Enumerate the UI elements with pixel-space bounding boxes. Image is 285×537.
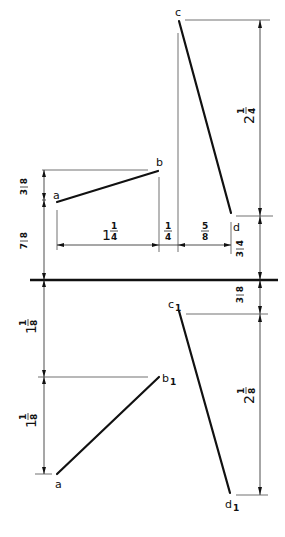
arrowhead: [42, 370, 46, 377]
svg-text:2: 2: [241, 395, 257, 404]
svg-text:4: 4: [235, 240, 245, 246]
dimension-label-one-and-eighth-upper: 1 1 8: [18, 319, 39, 334]
svg-text:1: 1: [236, 108, 246, 114]
point-label-c1-subscript: 1: [175, 303, 181, 313]
line-cd-top-view: [179, 21, 231, 213]
svg-text:1: 1: [165, 221, 171, 231]
arrowhead: [258, 20, 262, 28]
arrowhead: [258, 314, 262, 322]
projection-drawing: a b c d 3 8 7 8 1 1 4 1 4 5 8: [0, 0, 285, 537]
arrowhead: [42, 170, 46, 177]
point-label-b1-subscript: 1: [170, 377, 176, 387]
line-c1d1-front-view: [179, 311, 230, 493]
arrowhead: [224, 243, 231, 247]
dimension-label-three-eighths-right: 3 8: [235, 286, 245, 303]
point-label-c1-front: c: [168, 298, 174, 311]
dimension-label-two-and-quarter: 2 1 4: [236, 107, 257, 124]
svg-text:1: 1: [236, 388, 246, 394]
svg-text:4: 4: [111, 232, 117, 242]
dimension-label-quarter: 1 4: [164, 221, 172, 242]
point-label-a-front: a: [55, 478, 62, 491]
arrowhead: [152, 243, 159, 247]
dimension-label-one-and-quarter: 1 1 4: [102, 221, 118, 243]
svg-text:4: 4: [165, 232, 171, 242]
svg-text:1: 1: [18, 320, 28, 326]
svg-text:1: 1: [102, 227, 111, 243]
dimension-label-two-and-eighth: 2 1 8: [236, 387, 257, 404]
svg-text:8: 8: [247, 388, 257, 394]
dimension-label-five-eighths: 5 8: [201, 221, 209, 242]
point-label-d-top: d: [233, 221, 240, 234]
svg-text:1: 1: [111, 221, 117, 231]
arrowhead: [42, 200, 46, 207]
arrowhead: [258, 487, 262, 495]
svg-text:8: 8: [29, 414, 39, 420]
svg-text:3: 3: [235, 251, 245, 257]
line-ab-top-view: [57, 171, 158, 202]
arrowhead: [42, 467, 46, 474]
point-label-b-top: b: [156, 156, 163, 169]
svg-text:8: 8: [29, 320, 39, 326]
svg-text:3: 3: [19, 189, 29, 195]
point-label-d1-subscript: 1: [233, 503, 239, 513]
line-ab1-front-view: [57, 377, 159, 474]
dimension-label-one-and-eighth-lower: 1 1 8: [18, 413, 39, 428]
dimension-label-seven-eighths-left: 7 8: [19, 232, 29, 249]
point-label-c-top: c: [175, 6, 181, 19]
arrowhead: [42, 377, 46, 384]
svg-text:7: 7: [19, 243, 29, 249]
point-label-a-top: a: [53, 189, 60, 202]
point-label-d1-front: d: [225, 498, 232, 511]
svg-text:8: 8: [19, 232, 29, 238]
point-label-b1-front: b: [162, 372, 169, 385]
arrowhead: [258, 208, 262, 216]
arrowhead: [42, 193, 46, 200]
dimension-label-three-eighths-left: 3 8: [19, 178, 29, 195]
arrowhead: [258, 280, 262, 288]
svg-text:4: 4: [247, 108, 257, 114]
arrowhead: [258, 216, 262, 224]
svg-text:5: 5: [202, 221, 208, 231]
arrowhead: [57, 243, 64, 247]
arrowhead: [258, 306, 262, 314]
svg-text:1: 1: [18, 414, 28, 420]
svg-text:8: 8: [202, 232, 208, 242]
dimension-label-three-quarters: 3 4: [235, 240, 245, 257]
svg-text:8: 8: [19, 178, 29, 184]
arrowhead: [178, 243, 185, 247]
svg-text:3: 3: [235, 297, 245, 303]
svg-text:8: 8: [235, 286, 245, 292]
svg-text:2: 2: [241, 115, 257, 124]
